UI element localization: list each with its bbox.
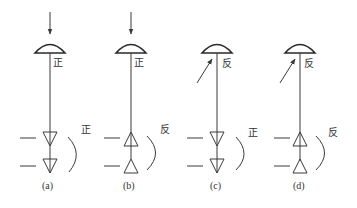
triangle-up-icon xyxy=(293,159,307,173)
caption: (c) xyxy=(210,180,221,192)
top-label: 正 xyxy=(53,57,63,68)
dome-icon xyxy=(285,45,315,54)
side-label: 反 xyxy=(328,127,338,138)
side-label: 正 xyxy=(81,124,91,135)
dome-icon xyxy=(35,45,65,54)
arc xyxy=(68,137,76,172)
arc xyxy=(147,136,156,170)
oblique-arrow-icon xyxy=(197,59,212,83)
top-label: 正 xyxy=(134,57,144,68)
caption: (b) xyxy=(123,180,135,192)
oblique-arrow-icon xyxy=(280,59,295,83)
dome-icon xyxy=(202,45,232,54)
top-label: 反 xyxy=(222,58,232,69)
dome-icon xyxy=(116,45,146,54)
side-label: 反 xyxy=(160,124,170,135)
caption: (a) xyxy=(42,180,53,192)
arc xyxy=(316,136,325,170)
triangle-up-icon xyxy=(124,159,138,173)
arc xyxy=(236,137,244,170)
panel-a: 正 正 (a) xyxy=(20,12,91,192)
diagram-canvas: 正 正 (a) 正 反 (b) 反 正 (c) xyxy=(0,0,357,208)
panel-c: 反 正 (c) xyxy=(187,45,258,193)
panel-d: 反 反 (d) xyxy=(274,45,338,193)
panel-b: 正 反 (b) xyxy=(104,12,170,192)
side-label: 正 xyxy=(248,127,258,138)
caption: (d) xyxy=(293,180,305,192)
top-label: 反 xyxy=(304,58,314,69)
